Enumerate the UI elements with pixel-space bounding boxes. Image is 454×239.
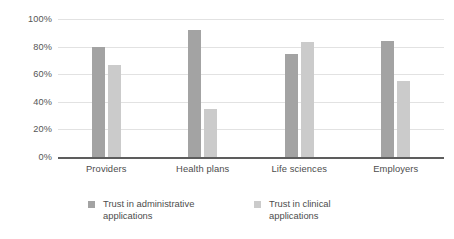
y-axis-tick-60: 60% — [0, 69, 52, 79]
y-axis-tick-20: 20% — [0, 124, 52, 134]
bar-providers-administrative — [92, 47, 105, 157]
x-axis-label-health-plans: Health plans — [155, 163, 252, 174]
bar-group-life-sciences — [251, 19, 348, 157]
x-axis-label-providers: Providers — [58, 163, 155, 174]
legend-item-administrative: Trust in administrative applications — [88, 198, 254, 221]
x-axis-label-employers: Employers — [348, 163, 445, 174]
y-axis-tick-80: 80% — [0, 42, 52, 52]
x-axis-label-life-sciences: Life sciences — [251, 163, 348, 174]
y-axis-tick-0: 0% — [0, 152, 52, 162]
bar-life-sciences-administrative — [285, 54, 298, 158]
bar-groups — [58, 19, 444, 157]
bar-life-sciences-clinical — [301, 42, 314, 157]
chart-legend: Trust in administrative applications Tru… — [88, 198, 420, 221]
x-axis-labels: Providers Health plans Life sciences Emp… — [58, 163, 444, 174]
legend-label-administrative-line2: applications — [103, 210, 153, 221]
legend-label-clinical-line2: applications — [269, 210, 319, 221]
legend-swatch-icon-administrative — [88, 201, 95, 208]
y-axis-tick-40: 40% — [0, 97, 52, 107]
bar-chart: 100% 80% 60% 40% 20% 0% Provid — [0, 0, 454, 239]
x-axis-line — [58, 157, 444, 159]
bar-employers-administrative — [381, 41, 394, 157]
legend-swatch-icon-clinical — [254, 201, 261, 208]
bar-group-employers — [348, 19, 445, 157]
bar-health-plans-clinical — [204, 109, 217, 157]
legend-item-clinical: Trust in clinical applications — [254, 198, 420, 221]
bar-group-providers — [58, 19, 155, 157]
legend-label-administrative: Trust in administrative applications — [103, 198, 194, 221]
bar-employers-clinical — [397, 81, 410, 157]
legend-label-clinical: Trust in clinical applications — [269, 198, 331, 221]
bar-providers-clinical — [108, 65, 121, 157]
legend-label-clinical-line1: Trust in clinical — [269, 198, 331, 209]
y-axis-labels: 100% 80% 60% 40% 20% 0% — [0, 0, 52, 176]
legend-label-administrative-line1: Trust in administrative — [103, 198, 194, 209]
bar-group-health-plans — [155, 19, 252, 157]
bar-health-plans-administrative — [188, 30, 201, 157]
y-axis-tick-100: 100% — [0, 14, 52, 24]
